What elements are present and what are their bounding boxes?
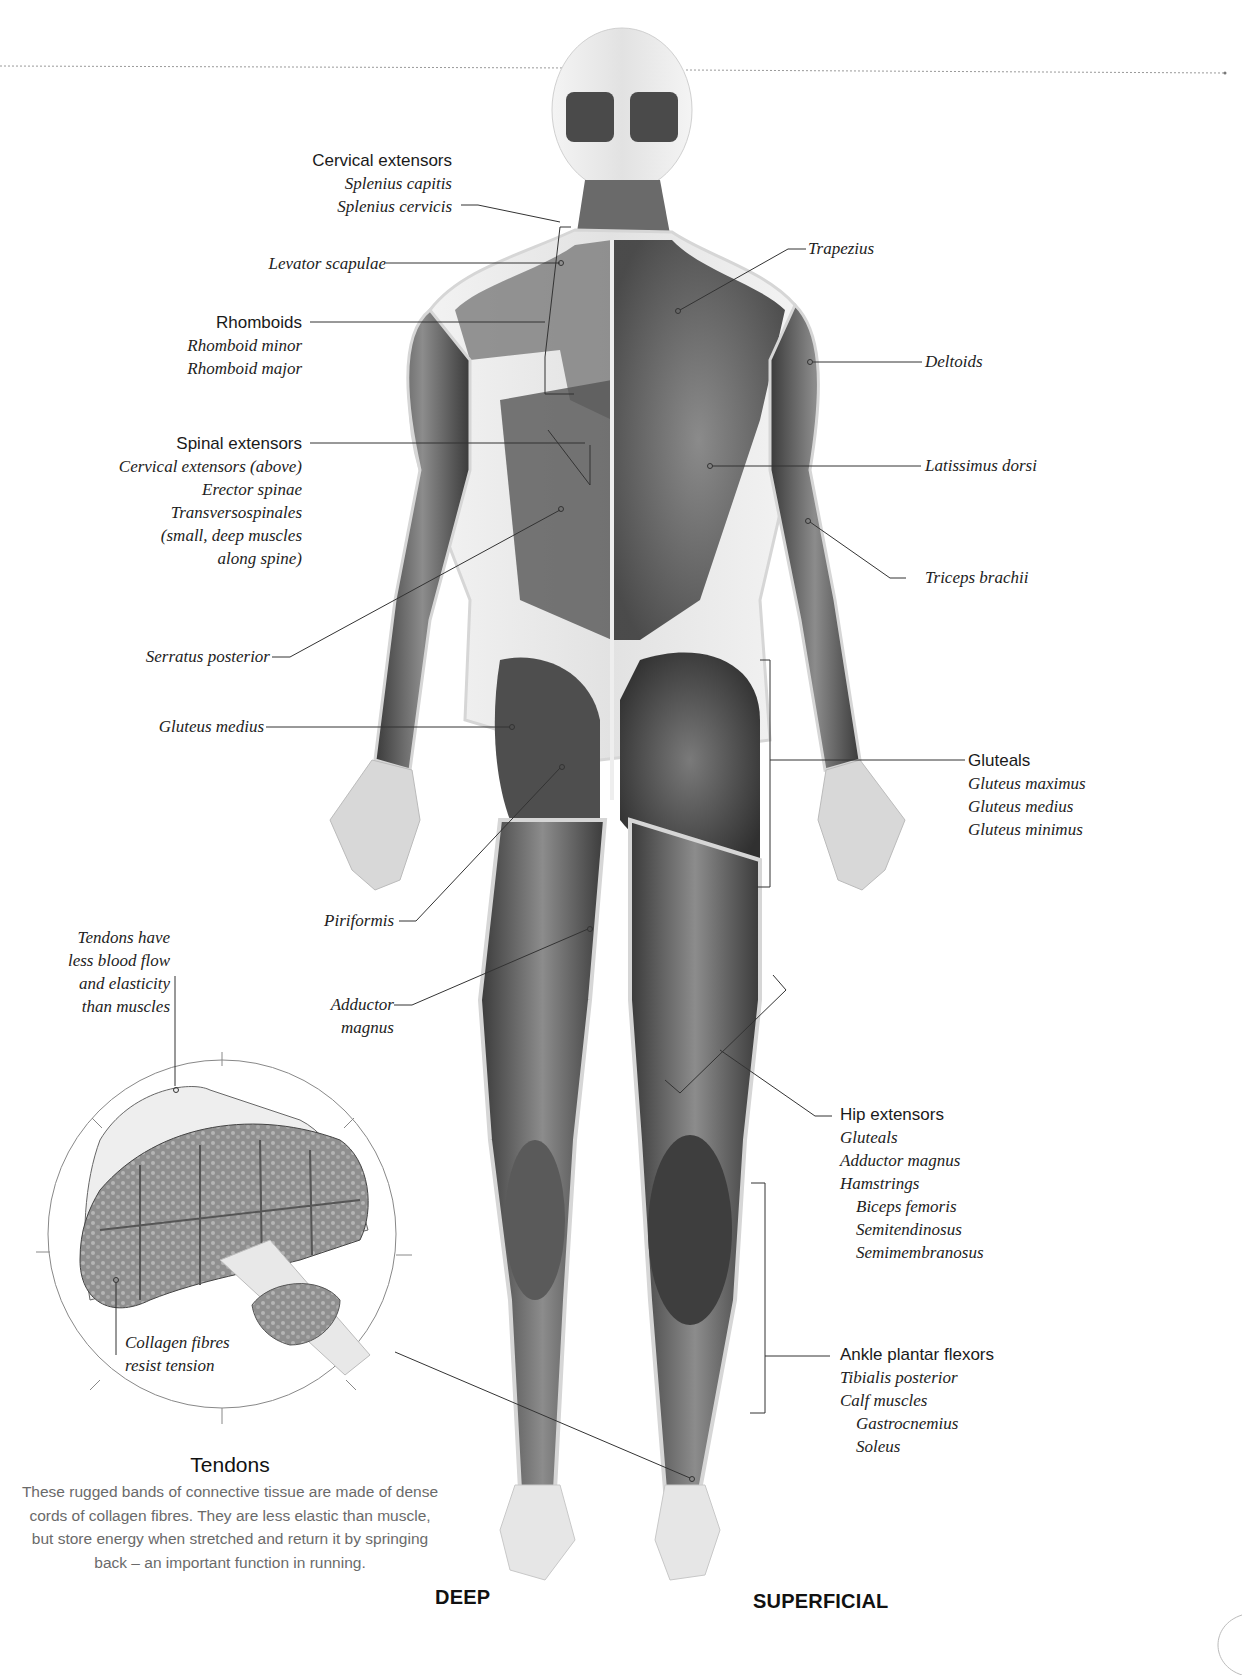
label-adductor-magnus: Adductor magnus xyxy=(331,993,394,1039)
view-label-deep: DEEP xyxy=(435,1586,490,1609)
label-deltoids: Deltoids xyxy=(925,350,983,373)
label-latissimus-dorsi: Latissimus dorsi xyxy=(925,454,1037,477)
label-serratus-posterior: Serratus posterior xyxy=(146,645,270,668)
label-trapezius: Trapezius xyxy=(808,237,874,260)
label-hip-extensors: Hip extensors Gluteals Adductor magnus H… xyxy=(840,1104,984,1264)
label-levator-scapulae: Levator scapulae xyxy=(268,252,386,275)
label-piriformis: Piriformis xyxy=(324,909,394,932)
label-triceps-brachii: Triceps brachii xyxy=(925,566,1028,589)
label-spinal-extensors: Spinal extensors Cervical extensors (abo… xyxy=(119,433,302,570)
label-rhomboids: Rhomboids Rhomboid minor Rhomboid major xyxy=(187,312,302,380)
view-label-superficial: SUPERFICIAL xyxy=(753,1590,889,1613)
tendons-title: Tendons xyxy=(0,1453,460,1477)
label-gluteus-medius: Gluteus medius xyxy=(159,715,264,738)
label-gluteals: Gluteals Gluteus maximus Gluteus medius … xyxy=(968,750,1086,841)
body-silhouette xyxy=(330,28,905,1580)
tendon-callout-top: Tendons have less blood flow and elastic… xyxy=(68,926,170,1018)
tendons-description: These rugged bands of connective tissue … xyxy=(20,1480,440,1574)
page-corner-mark xyxy=(1218,1615,1242,1675)
label-ankle-plantar-flexors: Ankle plantar flexors Tibialis posterior… xyxy=(840,1344,994,1458)
anatomy-page: Cervical extensors Splenius capitis Sple… xyxy=(0,0,1242,1675)
tendon-callout-bottom: Collagen fibres resist tension xyxy=(125,1331,230,1377)
label-cervical-extensors: Cervical extensors Splenius capitis Sple… xyxy=(312,150,452,218)
